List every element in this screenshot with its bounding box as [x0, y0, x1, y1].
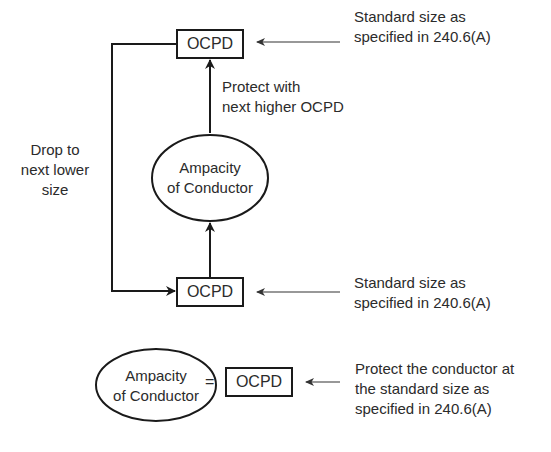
equals-operator: = — [205, 372, 214, 391]
top-note-line2: specified in 240.6(A) — [354, 27, 491, 46]
drop-lower-line1: Drop to — [20, 140, 90, 159]
top-ocpd-label: OCPD — [177, 30, 243, 58]
ampacity-line1: Ampacity — [152, 158, 268, 177]
equation-ocpd-label: OCPD — [226, 368, 292, 396]
drop-lower-line2: next lower — [20, 160, 90, 179]
bottom-note-line1: Standard size as — [354, 273, 466, 292]
bottom-ocpd-label: OCPD — [177, 278, 243, 306]
protect-higher-line2: next higher OCPD — [222, 97, 344, 116]
equation-note-line2: the standard size as — [355, 379, 489, 398]
equation-ampacity-line2: of Conductor — [96, 386, 216, 405]
bottom-note-line2: specified in 240.6(A) — [354, 293, 491, 312]
drop-lower-line3: size — [20, 180, 90, 199]
equation-ampacity-ellipse — [96, 349, 216, 421]
ampacity-line2: of Conductor — [152, 178, 268, 197]
equation-ampacity-line1: Ampacity — [96, 366, 216, 385]
protect-higher-line1: Protect with — [222, 77, 300, 96]
top-note-line1: Standard size as — [354, 7, 466, 26]
equation-note-line1: Protect the conductor at — [355, 359, 514, 378]
equation-note-line3: specified in 240.6(A) — [355, 399, 492, 418]
